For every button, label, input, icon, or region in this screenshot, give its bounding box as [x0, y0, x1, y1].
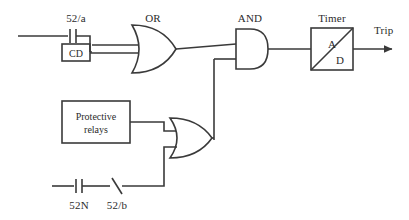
protective-relays-line2: relays — [84, 124, 108, 135]
wire-52b-to-or2-lower — [122, 147, 177, 186]
timer-label-a: A — [328, 39, 336, 50]
and-gate-icon — [236, 29, 268, 69]
label-and-gate: AND — [238, 13, 262, 24]
label-timer: Timer — [318, 13, 346, 24]
normally-closed-contact-icon-52b — [112, 178, 122, 194]
normally-open-contact-icon-52n — [76, 179, 82, 193]
normally-open-contact-icon-52a — [70, 29, 76, 43]
diagram-svg — [0, 0, 409, 220]
protective-relays-block — [62, 101, 130, 143]
protective-relays-line1: Protective — [76, 111, 117, 122]
label-trip: Trip — [374, 25, 393, 36]
label-52b: 52/b — [107, 200, 127, 211]
label-52a: 52/a — [66, 13, 86, 24]
logic-diagram: 52/a OR AND Timer Trip CD A D Protective… — [0, 0, 409, 220]
or-gate-icon-lower — [170, 118, 212, 158]
cd-block-label: CD — [69, 48, 83, 59]
wire-relays-to-or2-upper — [130, 122, 177, 131]
wire-or-to-and — [176, 44, 236, 49]
or-gate-icon-top — [132, 25, 176, 73]
timer-label-d: D — [336, 55, 344, 66]
label-52n: 52N — [69, 200, 89, 211]
label-or-gate-top: OR — [145, 13, 161, 24]
